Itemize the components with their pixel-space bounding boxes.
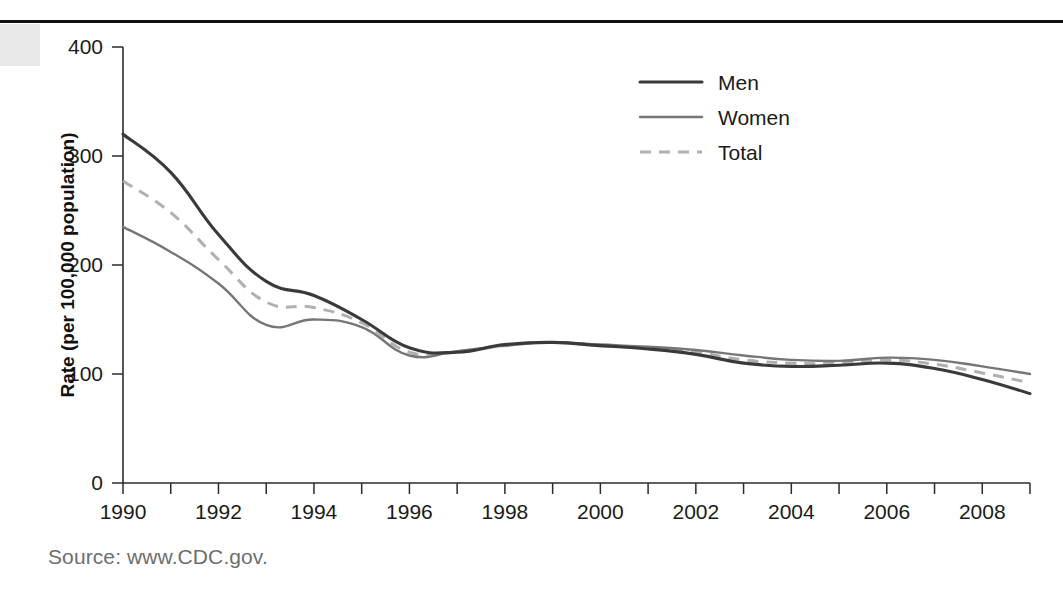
- y-axis-ticks: [112, 47, 123, 483]
- x-tick-label: 2006: [863, 500, 910, 523]
- x-axis-ticks: [123, 483, 1030, 494]
- line-chart: 0100200300400 19901992199419961998200020…: [0, 0, 1063, 530]
- y-axis-title: Rate (per 100,000 population): [57, 132, 78, 397]
- x-tick-label: 1998: [482, 500, 529, 523]
- chart-legend: MenWomenTotal: [640, 71, 790, 164]
- x-tick-label: 1994: [291, 500, 338, 523]
- x-tick-label: 2002: [672, 500, 719, 523]
- series-line-women: [123, 227, 1030, 374]
- axis-group: [123, 47, 1030, 483]
- legend-label-women: Women: [718, 106, 790, 129]
- x-tick-label: 2008: [959, 500, 1006, 523]
- x-tick-label: 2004: [768, 500, 815, 523]
- legend-label-men: Men: [718, 71, 759, 94]
- x-axis-tick-labels: 1990199219941996199820002002200420062008: [100, 500, 1006, 523]
- x-tick-label: 1990: [100, 500, 147, 523]
- y-tick-label: 0: [91, 471, 103, 494]
- data-series-group: [123, 134, 1030, 393]
- source-note: Source: www.CDC.gov.: [48, 545, 268, 569]
- x-tick-label: 2000: [577, 500, 624, 523]
- series-line-total: [123, 181, 1030, 383]
- legend-label-total: Total: [718, 141, 762, 164]
- figure-root: 0100200300400 19901992199419961998200020…: [0, 0, 1063, 597]
- series-line-men: [123, 134, 1030, 393]
- y-tick-label: 400: [68, 35, 103, 58]
- x-tick-label: 1992: [195, 500, 242, 523]
- x-tick-label: 1996: [386, 500, 433, 523]
